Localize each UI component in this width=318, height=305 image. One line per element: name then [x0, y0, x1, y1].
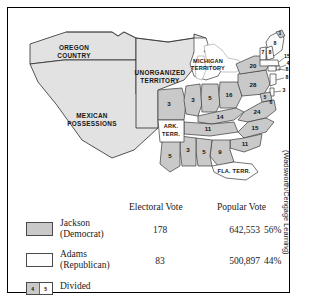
label-rhode-island: 4 — [287, 60, 289, 66]
label-maryland-adams: 6 — [270, 99, 273, 105]
label-alabama: 5 — [202, 148, 206, 155]
column-header-electoral-vote: Electoral Vote — [129, 202, 183, 212]
label-georgia: 9 — [218, 148, 222, 155]
label-mexican-possessions-line1: MEXICAN — [76, 112, 108, 119]
label-kentucky: 14 — [217, 113, 224, 120]
label-pennsylvania: 28 — [250, 81, 257, 88]
label-illinois: 3 — [191, 96, 195, 103]
label-virginia: 24 — [254, 108, 261, 115]
legend-row-jackson: Jackson (Democrat) 178 642,553 56% — [8, 220, 289, 248]
candidate-party-adams: (Republican) — [60, 260, 110, 271]
label-arkansas-territory-line2: TERR. — [162, 131, 180, 137]
legend-swatch-jackson — [26, 222, 53, 236]
label-michigan-territory-line1: MICHIGAN — [193, 58, 223, 64]
label-maryland: 5 — [264, 94, 267, 100]
label-missouri: 3 — [167, 100, 171, 107]
map-area: 3 3 5 16 14 11 24 15 11 9 5 3 5 28 20 8 … — [8, 8, 289, 194]
label-oregon-country-line1: OREGON — [59, 44, 89, 51]
percent-adams: 44% — [264, 256, 281, 266]
election-map-figure: 3 3 5 16 14 11 24 15 11 9 5 3 5 28 20 8 … — [7, 7, 290, 293]
label-connecticut: 8 — [286, 66, 289, 72]
legend-swatch-adams — [26, 253, 53, 267]
divided-swatch-left-mark: 4 — [27, 283, 40, 294]
legend-row-adams: Adams (Republican) 83 500,897 44% — [8, 251, 289, 279]
candidate-name-adams: Adams — [60, 249, 87, 260]
label-louisiana: 5 — [168, 152, 172, 159]
state-missouri — [158, 88, 186, 120]
legend: Electoral Vote Popular Vote Jackson (Dem… — [8, 194, 289, 292]
label-vermont: 7 — [262, 49, 265, 55]
electoral-vote-jackson: 178 — [129, 225, 191, 235]
popular-vote-adams: 500,897 — [204, 256, 260, 266]
label-unorganized-line1: UNORGANIZED — [135, 69, 186, 76]
label-tennessee: 11 — [205, 125, 212, 132]
label-arkansas-territory-line1: ARK. — [164, 123, 179, 129]
us-map-svg: 3 3 5 16 14 11 24 15 11 9 5 3 5 28 20 8 … — [8, 8, 289, 194]
label-michigan-territory-line2: TERRITORY — [191, 65, 225, 71]
popular-vote-jackson: 642,553 — [204, 225, 260, 235]
label-maine-jackson: 1 — [279, 30, 282, 36]
divided-swatch-right-mark: 5 — [40, 283, 53, 294]
label-ohio: 16 — [226, 91, 233, 98]
label-maine-adams: 8 — [274, 40, 277, 46]
label-indiana: 5 — [208, 94, 212, 101]
label-oregon-country-line2: COUNTRY — [57, 52, 91, 59]
label-delaware: 3 — [283, 87, 286, 93]
state-massachusetts — [260, 60, 279, 66]
label-mexican-possessions-line2: POSSESSIONS — [67, 120, 117, 127]
column-header-popular-vote: Popular Vote — [217, 202, 266, 212]
label-south-carolina: 11 — [242, 140, 249, 147]
legend-row-divided: 4 5 Divided — [8, 282, 289, 300]
legend-label-divided: Divided — [60, 281, 91, 291]
legend-swatch-divided: 4 5 — [26, 282, 53, 295]
label-massachusetts: 15 — [284, 53, 289, 59]
leader-delaware — [274, 91, 281, 92]
electoral-vote-adams: 83 — [129, 256, 191, 266]
label-new-jersey: 8 — [286, 74, 289, 80]
label-new-york: 20 — [250, 62, 257, 69]
label-north-carolina: 15 — [252, 124, 259, 131]
label-unorganized-line2: TERRITORY — [140, 77, 180, 84]
state-connecticut — [268, 66, 276, 71]
state-new-jersey — [270, 74, 276, 86]
source-credit: (Wadsworth/Cengage Learning) — [282, 150, 291, 254]
label-florida-territory: FLA. TERR. — [218, 168, 251, 174]
percent-jackson: 56% — [264, 225, 281, 235]
candidate-name-jackson: Jackson — [60, 218, 90, 229]
label-new-hampshire: 8 — [269, 49, 272, 55]
leader-new-jersey — [276, 78, 284, 80]
candidate-party-jackson: (Democrat) — [60, 229, 104, 240]
label-mississippi: 3 — [186, 146, 190, 153]
